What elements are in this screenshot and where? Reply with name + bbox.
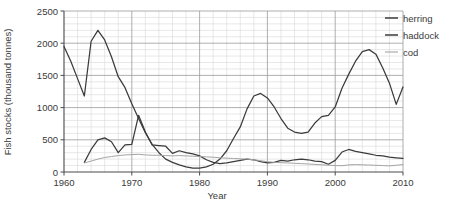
- y-tick-label: 0: [53, 167, 58, 178]
- legend-label-cod: cod: [403, 47, 418, 58]
- y-tick-label: 1500: [37, 70, 58, 81]
- x-tick-label: 1960: [53, 177, 74, 188]
- legend-label-haddock: haddock: [403, 30, 439, 41]
- y-tick-label: 1000: [37, 102, 58, 113]
- x-tick-label: 2010: [392, 177, 413, 188]
- legend-label-herring: herring: [403, 13, 433, 24]
- chart-canvas: 196019701980199020002010 050010001500200…: [0, 0, 450, 208]
- y-tick-label: 2000: [37, 38, 58, 49]
- x-tick-label: 2000: [325, 177, 346, 188]
- y-axis-title: Fish stocks (thousand tonnes): [2, 29, 13, 156]
- y-tick-label: 500: [42, 134, 58, 145]
- y-tick-label: 2500: [37, 6, 58, 17]
- fish-stocks-line-chart: 196019701980199020002010 050010001500200…: [0, 0, 450, 208]
- x-axis-title: Year: [207, 190, 226, 201]
- x-tick-label: 1980: [189, 177, 210, 188]
- x-tick-label: 1970: [121, 177, 142, 188]
- x-tick-label: 1990: [257, 177, 278, 188]
